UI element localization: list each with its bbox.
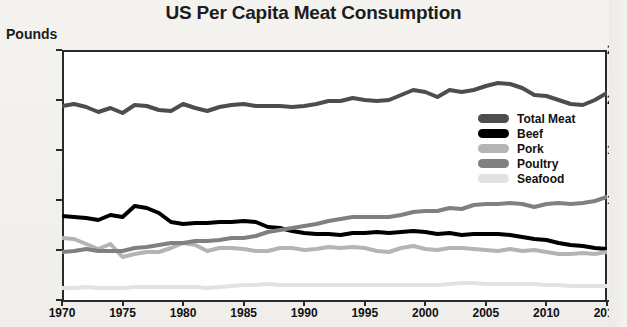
x-tick-mark (606, 300, 608, 306)
x-tick-label: 1975 (109, 306, 136, 320)
x-tick-mark (364, 300, 366, 306)
x-tick-label: 1985 (230, 306, 257, 320)
x-tick-label: 1970 (49, 306, 76, 320)
x-axis-line (62, 300, 609, 302)
x-tick-label: 2000 (412, 306, 439, 320)
page-title: US Per Capita Meat Consumption (0, 2, 627, 24)
x-tick-mark (182, 300, 184, 306)
legend-swatch-icon (478, 174, 509, 183)
x-tick-mark (243, 300, 245, 306)
x-tick-mark (545, 300, 547, 306)
legend-item-label: Poultry (517, 157, 558, 171)
x-tick-label: 2010 (533, 306, 560, 320)
legend-item-label: Beef (517, 127, 543, 141)
legend-swatch-icon (478, 129, 509, 138)
x-tick-label: 2005 (473, 306, 500, 320)
legend-item[interactable]: Beef (478, 126, 598, 141)
legend-item-label: Pork (517, 142, 544, 156)
x-tick-mark (485, 300, 487, 306)
x-tick-label: 1980 (170, 306, 197, 320)
legend: Total MeatBeefPorkPoultrySeafood (478, 111, 598, 186)
legend-swatch-icon (478, 144, 509, 153)
x-tick-mark (303, 300, 305, 306)
legend-item[interactable]: Seafood (478, 171, 598, 186)
legend-item-label: Total Meat (517, 112, 575, 126)
legend-item[interactable]: Poultry (478, 156, 598, 171)
x-tick-mark (424, 300, 426, 306)
series-line-total-meat (62, 83, 607, 113)
x-tick-mark (122, 300, 124, 306)
legend-swatch-icon (478, 114, 509, 123)
legend-swatch-icon (478, 159, 509, 168)
x-tick-mark (61, 300, 63, 306)
series-line-seafood (62, 283, 607, 288)
legend-item[interactable]: Pork (478, 141, 598, 156)
series-line-poultry (62, 197, 607, 252)
legend-item[interactable]: Total Meat (478, 111, 598, 126)
legend-item-label: Seafood (517, 172, 564, 186)
page-gutter (609, 0, 627, 327)
y-axis-label: Pounds (6, 26, 57, 42)
x-tick-label: 1995 (351, 306, 378, 320)
x-tick-label: 1990 (291, 306, 318, 320)
series-line-beef (62, 206, 607, 249)
chart-page: US Per Capita Meat Consumption Pounds 25… (0, 0, 627, 327)
